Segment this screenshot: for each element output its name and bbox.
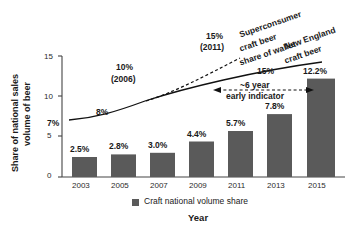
x-tick-2011: 2011 (228, 181, 245, 190)
bar-2015 (307, 79, 335, 177)
bar-2013 (267, 114, 292, 177)
x-tick-2013: 2013 (267, 181, 285, 190)
bar-label-2011: 5.7% (226, 118, 245, 128)
x-tick-2009: 2009 (189, 181, 207, 190)
newengland-label-pct: 15% (257, 66, 274, 76)
x-tick-2005: 2005 (111, 181, 129, 190)
line-label-8pct: 8% (96, 107, 108, 117)
early-indicator-line2: early indicator (226, 91, 284, 101)
early-indicator-arrowhead-left (213, 87, 221, 93)
bar-label-2007: 3.0% (148, 140, 167, 150)
bar-label-2015: 12.2% (303, 66, 327, 76)
bar-2009 (189, 142, 214, 178)
bar-2007 (150, 153, 175, 177)
x-tick-2015: 2015 (308, 181, 326, 190)
chart-canvas: Share of national sales volume of beer 1… (0, 0, 361, 237)
legend-label-craft-national-volume-share: Craft national volume share (144, 196, 248, 206)
dashed-label-10pct-year: (2006) (111, 74, 136, 84)
dashed-label-10pct: 10% (116, 62, 133, 72)
bar-label-2009: 4.4% (187, 129, 206, 139)
bar-label-2005: 2.8% (109, 141, 128, 151)
line-label-7pct: 7% (47, 118, 59, 128)
legend-swatch-craft-national-volume-share (132, 199, 139, 206)
dashed-label-15pct-year: (2011) (200, 42, 224, 52)
x-tick-2007: 2007 (150, 181, 168, 190)
x-axis-title: Year (188, 212, 208, 223)
x-tick-2003: 2003 (72, 181, 90, 190)
bar-2005 (111, 154, 136, 177)
bar-2003 (72, 157, 97, 177)
bar-label-2013: 7.8% (265, 101, 284, 111)
early-indicator-line1: ~6 year (240, 80, 270, 90)
bar-label-2003: 2.5% (70, 144, 89, 154)
dashed-label-15pct: 15% (206, 31, 223, 41)
bar-2011 (228, 131, 253, 177)
